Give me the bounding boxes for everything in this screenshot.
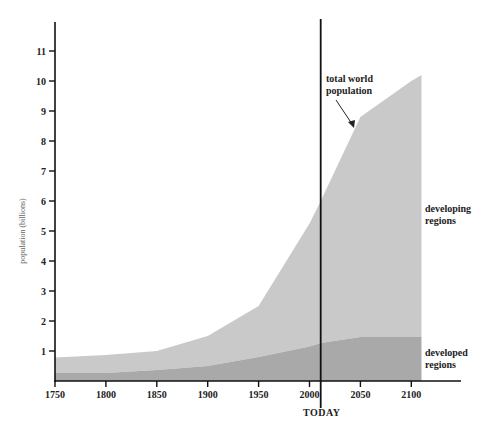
- y-axis-label: population (billions): [18, 198, 27, 264]
- y-tick-label: 6: [41, 196, 46, 207]
- y-tick-label: 10: [36, 76, 46, 87]
- total-world-population-label: total world population: [326, 73, 375, 96]
- y-tick-label: 5: [41, 226, 46, 237]
- y-tick-label: 4: [41, 256, 46, 267]
- x-tick-label: 1950: [249, 389, 269, 400]
- y-tick-label: 7: [41, 166, 46, 177]
- developed-regions-label: developed regions: [425, 347, 470, 370]
- x-tick-label: 1800: [96, 389, 116, 400]
- developing-regions-label: developing regions: [425, 203, 474, 226]
- y-tick-label: 9: [41, 106, 46, 117]
- x-tick-label: 1750: [45, 389, 65, 400]
- x-tick-label: 1900: [198, 389, 218, 400]
- y-tick-label: 1: [41, 346, 46, 357]
- y-ticks: 1234567891011: [36, 46, 55, 357]
- population-chart: 1234567891011 17501800185019001950200020…: [0, 0, 481, 439]
- today-label: TODAY: [303, 407, 341, 418]
- x-tick-label: 2050: [350, 389, 370, 400]
- x-ticks: 17501800185019001950200020502100: [45, 381, 421, 400]
- x-tick-label: 2000: [300, 389, 320, 400]
- arrow-icon: [336, 100, 355, 128]
- developing-regions-area: [55, 75, 421, 373]
- y-tick-label: 8: [41, 136, 46, 147]
- y-tick-label: 2: [41, 316, 46, 327]
- plot-areas: [55, 75, 421, 381]
- x-tick-label: 1850: [147, 389, 167, 400]
- y-tick-label: 11: [37, 46, 46, 57]
- y-tick-label: 3: [41, 286, 46, 297]
- x-tick-label: 2100: [401, 389, 421, 400]
